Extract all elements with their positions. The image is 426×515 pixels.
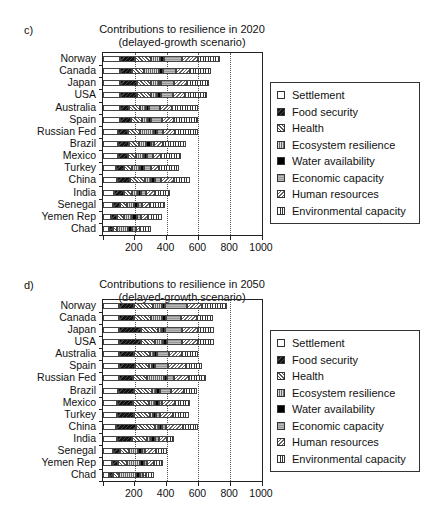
bar-segment: [134, 303, 153, 309]
stacked-bar: [103, 190, 170, 196]
y-tick: [99, 186, 103, 187]
bar-segment: [103, 351, 119, 357]
bar-segment: [175, 400, 190, 406]
bar-segment: [139, 141, 146, 147]
bar-segment: [117, 177, 131, 183]
legend-swatch-icon: [277, 389, 285, 397]
bar-segment: [118, 153, 128, 159]
bar-segment: [184, 388, 197, 394]
legend-label: Human resources: [292, 436, 379, 448]
bar-segment: [120, 68, 132, 74]
category-label: Russian Fed: [37, 371, 96, 383]
y-tick: [99, 409, 103, 410]
bar-segment: [136, 424, 155, 430]
legend-swatch-icon: [277, 438, 285, 446]
bar-segment: [134, 412, 150, 418]
y-tick: [99, 102, 103, 103]
bar-segment: [134, 351, 150, 357]
legend-item: Economic capacity: [277, 418, 419, 435]
legend-item: Human resources: [277, 434, 419, 451]
bar-segment: [124, 190, 132, 196]
bar-segment: [120, 56, 135, 62]
bar-segment: [127, 202, 134, 208]
category-label: Russian Fed: [37, 125, 96, 137]
bar-segment: [103, 375, 119, 381]
bar-segment: [141, 214, 148, 220]
x-tick: [230, 481, 231, 486]
y-tick: [99, 372, 103, 373]
bar-segment: [154, 141, 163, 147]
bar-segment: [183, 424, 198, 430]
stacked-bar: [103, 68, 211, 74]
x-tick-label: 400: [157, 241, 175, 253]
bar-segment: [103, 117, 120, 123]
category-label: Norway: [60, 52, 96, 64]
bar-segment: [150, 202, 165, 208]
y-tick: [99, 65, 103, 66]
bar-segment: [161, 177, 174, 183]
stacked-bar: [103, 165, 179, 171]
bar-segment: [173, 92, 185, 98]
bar-segment: [103, 141, 118, 147]
legend-label: Settlement: [292, 337, 345, 349]
bar-segment: [118, 460, 127, 466]
stacked-bar: [103, 315, 213, 321]
chart-panel-c: c) Contributions to resilience in 2020 (…: [0, 0, 426, 255]
category-label: India: [73, 186, 96, 198]
legend-item: Settlement: [277, 335, 419, 352]
bar-segment: [124, 165, 133, 171]
stacked-bar: [103, 375, 206, 381]
bar-segment: [129, 141, 139, 147]
bar-segment: [181, 315, 197, 321]
bar-segment: [103, 388, 118, 394]
bar-segment: [117, 226, 129, 232]
y-tick: [99, 397, 103, 398]
y-tick: [99, 235, 103, 236]
bar-segment: [151, 80, 159, 86]
bar-segment: [119, 315, 134, 321]
bar-segment: [167, 436, 175, 442]
stacked-bar: [103, 339, 214, 345]
bar-segment: [137, 80, 151, 86]
bar-segment: [155, 339, 163, 345]
category-label: Spain: [69, 113, 96, 125]
category-labels: NorwayCanadaJapanUSAAustraliaSpainRussia…: [0, 52, 96, 234]
legend-item: Ecosystem resilience: [277, 137, 419, 154]
legend-label: Ecosystem resilience: [292, 387, 395, 399]
bar-segment: [103, 315, 119, 321]
stacked-bar: [103, 351, 198, 357]
bar-segment: [172, 105, 198, 111]
x-tick: [198, 235, 199, 240]
bar-segment: [128, 153, 137, 159]
bar-segment: [119, 363, 135, 369]
bar-segment: [173, 412, 189, 418]
bar-segment: [103, 436, 117, 442]
bar-segment: [103, 56, 120, 62]
bar-segment: [103, 412, 117, 418]
bar-segment: [135, 56, 152, 62]
y-tick: [99, 481, 103, 482]
bar-segment: [151, 117, 162, 123]
bar-segment: [120, 92, 137, 98]
legend-item: Water availability: [277, 401, 419, 418]
bar-segment: [103, 80, 120, 86]
category-label: Norway: [60, 299, 96, 311]
stacked-bar: [103, 129, 198, 135]
legend-swatch-icon: [277, 405, 285, 413]
legend-swatch-icon: [277, 157, 285, 165]
bar-segment: [160, 105, 172, 111]
bar-segment: [119, 351, 134, 357]
y-tick: [99, 199, 103, 200]
x-tick: [134, 235, 135, 240]
bar-segment: [186, 363, 202, 369]
bar-segment: [120, 202, 127, 208]
category-label: Chad: [71, 468, 96, 480]
bar-segment: [118, 141, 129, 147]
y-tick: [99, 336, 103, 337]
x-tick: [262, 235, 263, 240]
category-label: Japan: [67, 76, 96, 88]
bar-segment: [197, 315, 213, 321]
y-tick: [99, 150, 103, 151]
legend-label: Economic capacity: [292, 172, 384, 184]
category-label: Australia: [55, 347, 96, 359]
